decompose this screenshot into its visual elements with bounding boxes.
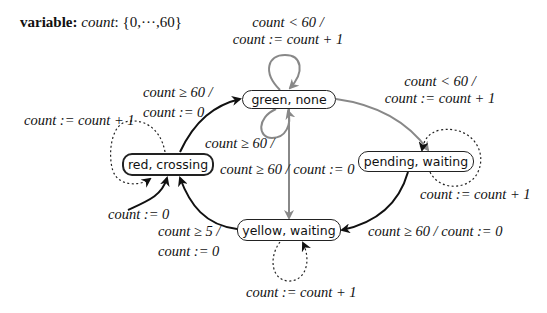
state-red-crossing: red, crossing	[122, 153, 214, 176]
label-red-self: count := count + 1	[24, 112, 135, 129]
state-machine-diagram: variable: count: {0,···,60}	[0, 0, 547, 313]
label-yellow-self: count := count + 1	[246, 284, 357, 301]
label-pending-self: count := count + 1	[420, 186, 531, 203]
edge-pending-to-yellow	[342, 172, 408, 230]
label-green-self-top: count < 60 / count := count + 1	[228, 14, 348, 48]
label-red-to-green: count ≥ 60 / count := 0	[143, 84, 213, 121]
state-label: green, none	[251, 92, 326, 107]
state-yellow-waiting: yellow, waiting	[237, 219, 341, 241]
edge-green-self-bottom	[261, 109, 289, 138]
label-pending-to-yellow: count ≥ 60 / count := 0	[368, 223, 503, 240]
state-label: pending, waiting	[364, 154, 468, 169]
edge-yellow-to-red	[180, 178, 237, 229]
label-green-to-yellow: count ≥ 60 / count := 0	[220, 161, 355, 178]
label-red-initial: count := 0	[108, 206, 169, 223]
state-label: yellow, waiting	[242, 223, 335, 238]
state-green-none: green, none	[242, 90, 336, 109]
edge-green-self-top	[269, 55, 300, 90]
state-pending-waiting: pending, waiting	[358, 151, 474, 172]
edge-yellow-self	[273, 242, 307, 281]
state-label: red, crossing	[128, 157, 208, 172]
label-green-to-pending: count < 60 / count := count + 1	[375, 73, 505, 107]
label-yellow-to-red: count ≥ 5 / count := 0	[158, 223, 220, 260]
label-green-self-bottom: count ≥ 60 /	[205, 135, 275, 152]
